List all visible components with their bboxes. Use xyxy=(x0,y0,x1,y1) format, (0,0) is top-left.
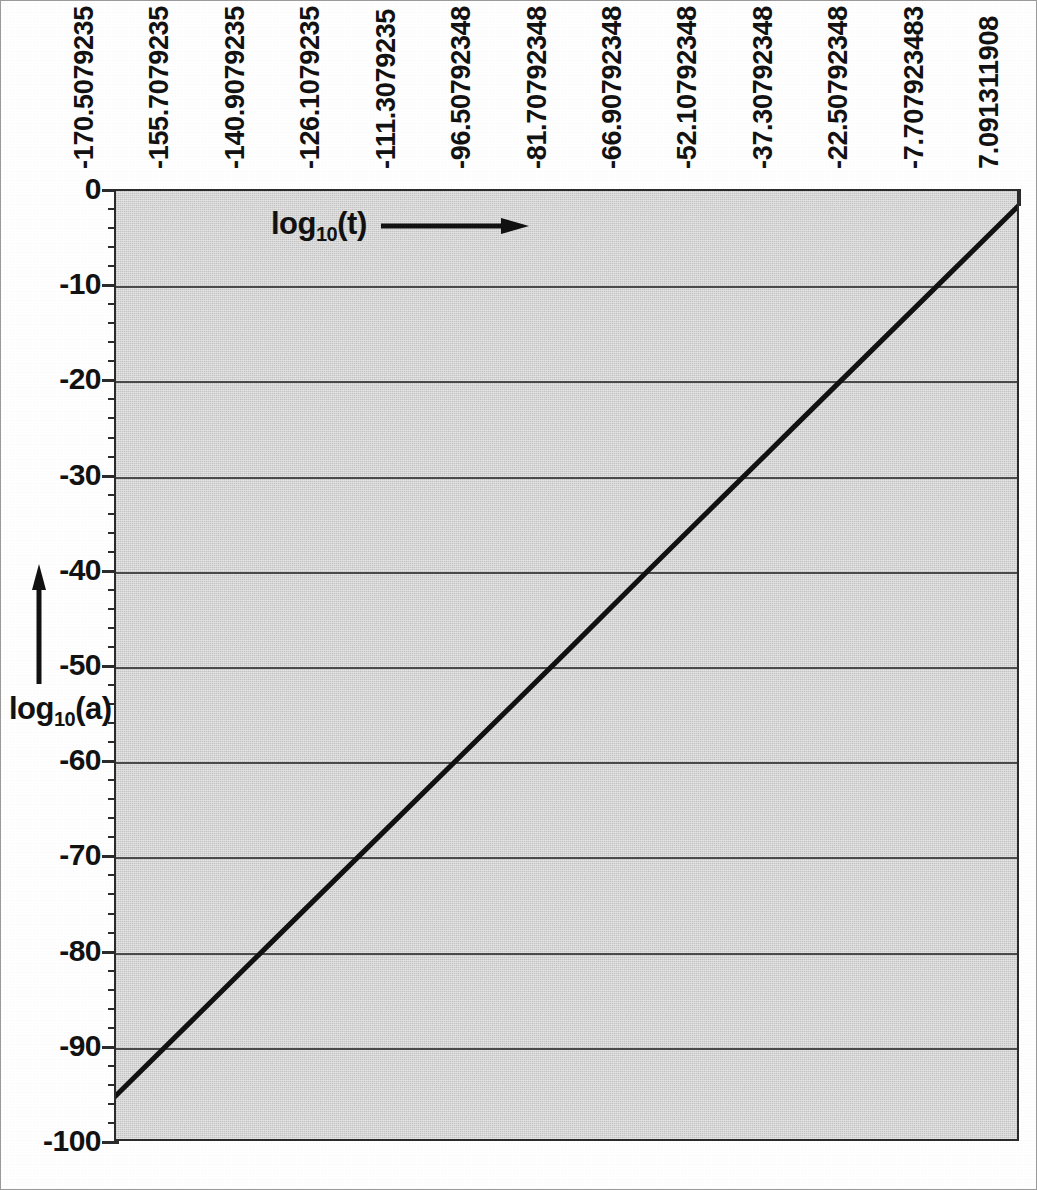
x-axis-title-subscript: 10 xyxy=(316,223,337,245)
x-axis-tick-label: -52.10792348 xyxy=(672,6,703,169)
x-axis-title-base: log xyxy=(271,206,316,241)
y-axis-tick-label: -80 xyxy=(59,934,101,968)
y-axis-tick-label: 0 xyxy=(85,172,101,206)
y-axis-tick-label: -50 xyxy=(59,648,101,682)
y-axis-tick-label: -90 xyxy=(59,1029,101,1063)
x-axis-tick-label: -37.30792348 xyxy=(748,6,779,169)
y-axis-tick-label: -70 xyxy=(59,838,101,872)
x-axis-tick-label: -155.7079235 xyxy=(144,6,175,169)
x-axis-tick-label: -22.50792348 xyxy=(823,6,854,169)
x-axis-tick xyxy=(1019,189,1021,206)
x-axis-title-group: log10(t) xyxy=(271,206,529,246)
chart-page: -170.5079235-155.7079235-140.9079235-126… xyxy=(0,0,1037,1190)
x-axis-tick-label: -96.50792348 xyxy=(446,6,477,169)
y-axis-tick-label: -30 xyxy=(59,458,101,492)
x-axis-title: log10(t) xyxy=(271,206,367,246)
x-axis-title-tail: (t) xyxy=(337,206,366,241)
x-axis-tick-label: -7.707923483 xyxy=(899,6,930,169)
x-axis-tick-label: -140.9079235 xyxy=(220,6,251,169)
plot-area xyxy=(114,189,1019,1141)
y-axis-tick-major xyxy=(102,1141,119,1144)
y-axis-title-tail: (a) xyxy=(75,691,111,726)
y-axis-tick-label: -60 xyxy=(59,743,101,777)
y-axis-tick-label: -100 xyxy=(43,1124,101,1158)
x-axis-tick-label: -126.1079235 xyxy=(295,6,326,169)
y-axis-title: log10(a) xyxy=(9,691,112,731)
x-axis-tick-labels: -170.5079235-155.7079235-140.9079235-126… xyxy=(114,1,1019,177)
y-axis-title-subscript: 10 xyxy=(54,708,75,730)
data-series-line xyxy=(116,191,1019,1141)
x-axis-tick-label: 7.091311908 xyxy=(974,16,1005,169)
y-axis-tick-labels: 0-10-20-30-40-50-60-70-80-90-100 xyxy=(1,1,101,1190)
x-axis-arrow-right-icon xyxy=(381,216,529,236)
y-axis-title-base: log xyxy=(9,691,54,726)
y-axis-tick-label: -10 xyxy=(59,267,101,301)
x-axis-tick-label: -66.90792348 xyxy=(597,6,628,169)
y-axis-tick-label: -40 xyxy=(59,553,101,587)
y-axis-tick-label: -20 xyxy=(59,362,101,396)
x-axis-tick-label: -81.70792348 xyxy=(522,6,553,169)
x-axis-tick-label: -111.3079235 xyxy=(371,9,402,169)
y-axis-arrow-up-icon xyxy=(32,564,46,684)
series-polyline xyxy=(116,203,1019,1095)
